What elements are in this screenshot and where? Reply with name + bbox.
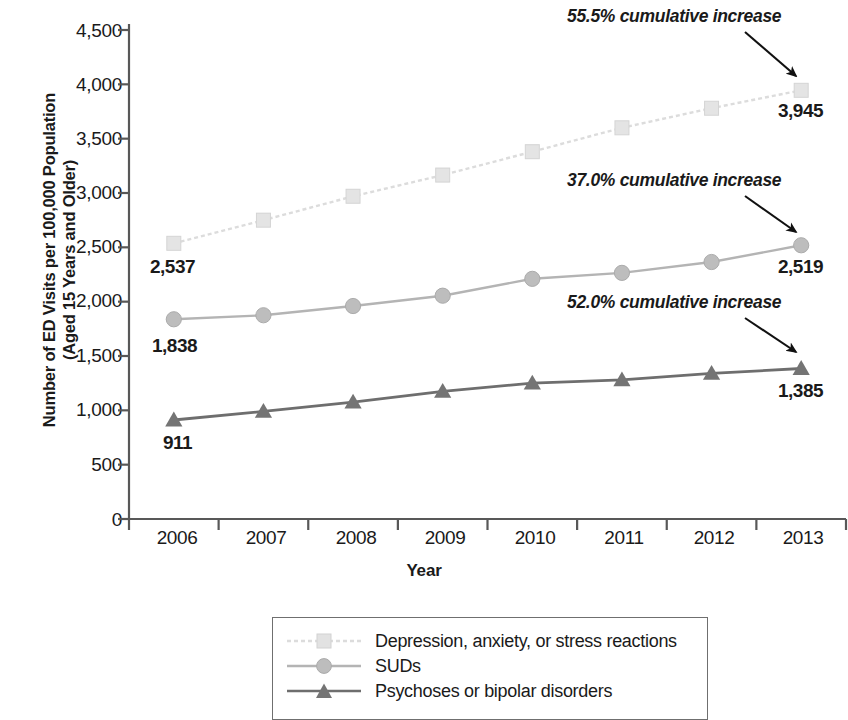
data-point-marker: [256, 308, 271, 323]
annotation-psychoses: 52.0% cumulative increase: [567, 294, 781, 312]
legend-label-psychoses: Psychoses or bipolar disorders: [375, 682, 612, 700]
data-point-marker: [705, 101, 719, 115]
data-point-marker: [345, 298, 360, 313]
data-point-marker: [704, 254, 719, 269]
series-triangle: [165, 360, 810, 426]
legend-label-suds: SUDs: [375, 657, 421, 675]
value-label-suds-start: 1,838: [152, 336, 197, 355]
x-tick-label: 2008: [311, 528, 401, 547]
chart-legend: Depression, anxiety, or stress reactions…: [272, 617, 708, 720]
data-point-marker: [346, 189, 360, 203]
data-point-marker: [525, 145, 539, 159]
legend-key-depression: [287, 632, 361, 650]
data-point-marker: [794, 238, 809, 253]
data-point-marker: [166, 312, 181, 327]
series-circle: [166, 238, 809, 327]
data-point-marker: [794, 83, 808, 97]
annotation-depression: 55.5% cumulative increase: [567, 8, 781, 26]
legend-item-psychoses[interactable]: Psychoses or bipolar disorders: [273, 678, 707, 703]
legend-label-depression: Depression, anxiety, or stress reactions: [375, 632, 677, 650]
annotation-arrow-depression: [745, 32, 796, 76]
legend-item-depression[interactable]: Depression, anxiety, or stress reactions: [273, 628, 707, 653]
data-point-marker: [525, 271, 540, 286]
annotation-arrow-psychoses: [745, 318, 796, 352]
x-axis-title: Year: [0, 561, 848, 581]
x-tick-label: 2010: [490, 528, 580, 547]
chart-figure: Number of ED Visits per 100,000 Populati…: [0, 0, 848, 720]
value-label-psychoses-start: 911: [163, 433, 192, 452]
x-tick-label: 2013: [758, 528, 848, 547]
x-tick-label: 2011: [579, 528, 669, 547]
value-label-depression-start: 2,537: [150, 257, 195, 276]
data-point-marker: [614, 265, 629, 280]
value-label-suds-end: 2,519: [778, 257, 823, 276]
data-point-marker: [256, 213, 270, 227]
annotation-suds: 37.0% cumulative increase: [567, 172, 781, 190]
x-tick-label: 2009: [400, 528, 490, 547]
data-series-layer: [165, 83, 810, 426]
x-tick-label: 2007: [221, 528, 311, 547]
y-axis-ticks: [118, 30, 129, 519]
legend-item-suds[interactable]: SUDs: [273, 653, 707, 678]
data-point-marker: [436, 168, 450, 182]
series-square: [167, 83, 808, 250]
legend-key-psychoses: [287, 682, 361, 700]
axis-lines: [129, 24, 846, 519]
data-point-marker: [167, 236, 181, 250]
value-label-psychoses-end: 1,385: [778, 381, 823, 400]
x-tick-label: 2012: [669, 528, 759, 547]
data-point-marker: [615, 121, 629, 135]
annotation-arrow-suds: [745, 196, 796, 232]
x-tick-label: 2006: [132, 528, 222, 547]
legend-key-suds: [287, 657, 361, 675]
plot-area: [0, 0, 848, 720]
data-point-marker: [435, 288, 450, 303]
value-label-depression-end: 3,945: [778, 101, 823, 120]
